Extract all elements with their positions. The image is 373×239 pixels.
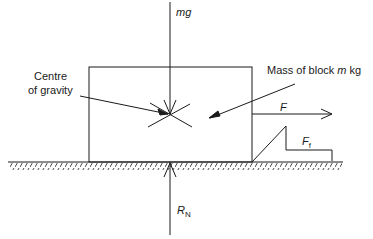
mass-label: Mass of block m kg xyxy=(267,64,361,76)
ground-hatching xyxy=(10,163,342,170)
mass-pointer-head xyxy=(209,111,220,118)
friction-curve xyxy=(252,126,332,162)
centre-of-gravity-label-line2: of gravity xyxy=(28,84,73,96)
normal-reaction-label: RN xyxy=(177,204,191,221)
applied-force-label: F xyxy=(280,101,287,113)
mass-label-unit: kg xyxy=(346,64,361,76)
friction-force-symbol: F xyxy=(302,135,309,147)
normal-reaction-symbol: R xyxy=(177,204,185,216)
normal-reaction-subscript: N xyxy=(185,210,191,219)
cg-pointer xyxy=(80,96,168,114)
friction-force-subscript: f xyxy=(309,141,311,150)
free-body-diagram: mg Centre of gravity Mass of block m kg … xyxy=(0,0,373,239)
friction-force-label: Ff xyxy=(302,135,311,152)
cg-cross-2 xyxy=(148,104,190,127)
centre-of-gravity-label-line1: Centre xyxy=(34,70,67,82)
mass-label-prefix: Mass of block xyxy=(267,64,337,76)
weight-label: mg xyxy=(176,6,191,18)
